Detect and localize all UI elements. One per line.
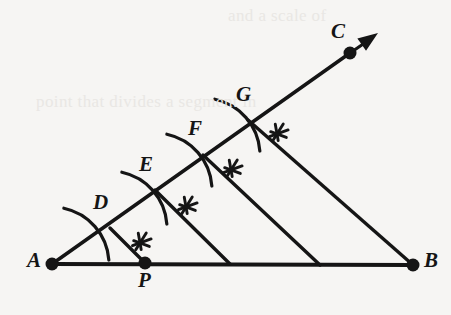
point-label-D: D	[93, 190, 108, 215]
construction-canvas	[0, 0, 451, 315]
direction-arrowhead	[357, 33, 378, 51]
point-label-P: P	[138, 268, 151, 293]
segments-group	[52, 38, 413, 265]
point-label-E: E	[139, 152, 153, 177]
ghost-text-line: and a scale of	[228, 6, 327, 26]
transversal-e	[155, 190, 230, 264]
ghost-text-line: point that divides a segment in	[36, 92, 257, 112]
point-label-F: F	[188, 116, 202, 141]
point-label-C: C	[331, 19, 345, 44]
point-label-G: G	[236, 82, 251, 107]
point-dot-B[interactable]	[407, 259, 420, 272]
point-dot-C[interactable]	[344, 47, 357, 60]
point-dot-A[interactable]	[46, 258, 59, 271]
point-label-B: B	[424, 248, 438, 273]
point-label-A: A	[27, 248, 41, 273]
geometry-figure: and a scale ofpoint that divides a segme…	[0, 0, 451, 315]
arrowhead-group	[357, 33, 378, 51]
base-ab	[52, 264, 413, 265]
tick-marks-group	[133, 124, 289, 250]
transversal-f	[203, 155, 320, 265]
